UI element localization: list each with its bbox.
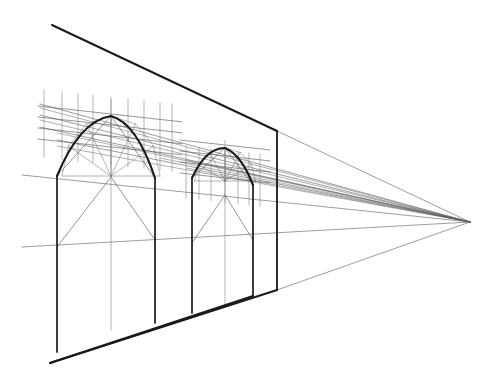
perspective-drawing: Two-bay arcade in one-point perspective bbox=[0, 0, 497, 385]
canvas-background bbox=[0, 0, 497, 385]
